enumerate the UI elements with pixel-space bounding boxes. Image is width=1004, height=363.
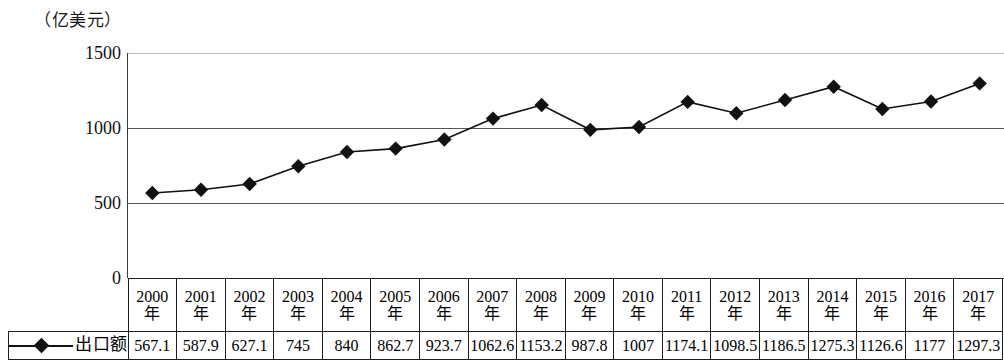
value-cell: 840 — [322, 332, 371, 360]
year-header-cell: 2011 年 — [662, 279, 711, 332]
diamond-marker-icon — [924, 94, 938, 108]
year-number: 2003 — [274, 288, 322, 305]
year-header-cell: 2000 年 — [128, 279, 177, 332]
year-suffix: 年 — [420, 305, 468, 322]
year-suffix: 年 — [323, 305, 371, 322]
diamond-marker-icon — [778, 93, 792, 107]
value-cell: 567.1 — [128, 332, 177, 360]
value-cell: 1153.2 — [517, 332, 566, 360]
year-number: 2002 — [226, 288, 274, 305]
year-header-cell: 2015 年 — [857, 279, 906, 332]
table-corner-cell — [9, 279, 129, 332]
chart-area: 1500 1000 500 0 — [0, 0, 1003, 290]
value-cell: 1297.3 — [954, 332, 1003, 360]
year-suffix: 年 — [129, 305, 177, 322]
year-suffix: 年 — [760, 305, 808, 322]
value-cell: 1174.1 — [662, 332, 711, 360]
year-header-cell: 2012 年 — [711, 279, 760, 332]
year-number: 2012 — [711, 288, 759, 305]
value-cell: 987.8 — [565, 332, 614, 360]
year-header-cell: 2004 年 — [322, 279, 371, 332]
year-number: 2015 — [857, 288, 905, 305]
table-row-values: 出口额 567.1 587.9 627.1 745 840 862.7 923.… — [9, 332, 1003, 360]
value-cell: 1007 — [614, 332, 663, 360]
y-tick-1000: 1000 — [85, 119, 121, 137]
year-suffix: 年 — [469, 305, 517, 322]
value-cell: 1062.6 — [468, 332, 517, 360]
year-number: 2008 — [517, 288, 565, 305]
diamond-marker-icon — [875, 102, 889, 116]
year-number: 2004 — [323, 288, 371, 305]
legend-line-icon — [47, 345, 73, 347]
year-number: 2005 — [371, 288, 419, 305]
value-cell: 923.7 — [419, 332, 468, 360]
series-line — [152, 83, 979, 193]
diamond-marker-icon — [632, 120, 646, 134]
export-value-line-series — [128, 53, 1004, 278]
year-suffix: 年 — [663, 305, 711, 322]
table-row-years: 2000 年 2001 年 2002 年 2003 年 2004 年 2005 … — [9, 279, 1003, 332]
year-header-cell: 2013 年 — [760, 279, 809, 332]
year-suffix: 年 — [857, 305, 905, 322]
diamond-marker-icon — [486, 111, 500, 125]
year-suffix: 年 — [177, 305, 225, 322]
year-suffix: 年 — [614, 305, 662, 322]
year-header-cell: 2003 年 — [274, 279, 323, 332]
value-cell: 1098.5 — [711, 332, 760, 360]
year-number: 2007 — [469, 288, 517, 305]
year-header-cell: 2007 年 — [468, 279, 517, 332]
value-cell: 1186.5 — [760, 332, 809, 360]
year-number: 2006 — [420, 288, 468, 305]
year-suffix: 年 — [809, 305, 857, 322]
year-number: 2009 — [566, 288, 614, 305]
year-number: 2010 — [614, 288, 662, 305]
year-header-cell: 2002 年 — [225, 279, 274, 332]
year-number: 2017 — [954, 288, 1002, 305]
year-number: 2001 — [177, 288, 225, 305]
year-header-cell: 2014 年 — [808, 279, 857, 332]
year-number: 2011 — [663, 288, 711, 305]
year-suffix: 年 — [226, 305, 274, 322]
diamond-marker-icon — [33, 338, 48, 353]
diamond-marker-icon — [437, 132, 451, 146]
diamond-marker-icon — [729, 106, 743, 120]
year-header-cell: 2010 年 — [614, 279, 663, 332]
year-number: 2016 — [906, 288, 954, 305]
diamond-marker-icon — [388, 141, 402, 155]
value-cell: 587.9 — [177, 332, 226, 360]
year-header-cell: 2006 年 — [419, 279, 468, 332]
legend-line-icon — [9, 345, 35, 347]
diamond-marker-icon — [291, 159, 305, 173]
year-header-cell: 2001 年 — [177, 279, 226, 332]
value-cell: 862.7 — [371, 332, 420, 360]
year-header-cell: 2008 年 — [517, 279, 566, 332]
plot-region — [127, 53, 1004, 278]
value-cell: 1275.3 — [808, 332, 857, 360]
year-suffix: 年 — [566, 305, 614, 322]
diamond-marker-icon — [242, 177, 256, 191]
data-table: 2000 年 2001 年 2002 年 2003 年 2004 年 2005 … — [8, 278, 1003, 360]
y-axis: 1500 1000 500 0 — [0, 0, 127, 290]
year-header-cell: 2016 年 — [905, 279, 954, 332]
year-number: 2014 — [809, 288, 857, 305]
year-suffix: 年 — [371, 305, 419, 322]
year-header-cell: 2009 年 — [565, 279, 614, 332]
diamond-marker-icon — [340, 145, 354, 159]
year-suffix: 年 — [517, 305, 565, 322]
diamond-marker-icon — [583, 123, 597, 137]
diamond-marker-icon — [534, 98, 548, 112]
year-number: 2013 — [760, 288, 808, 305]
year-suffix: 年 — [954, 305, 1002, 322]
value-cell: 627.1 — [225, 332, 274, 360]
year-header-cell: 2005 年 — [371, 279, 420, 332]
value-cell: 1177 — [905, 332, 954, 360]
year-header-cell: 2017 年 — [954, 279, 1003, 332]
year-number: 2000 — [129, 288, 177, 305]
diamond-marker-icon — [826, 80, 840, 94]
diamond-marker-icon — [145, 186, 159, 200]
year-suffix: 年 — [711, 305, 759, 322]
year-suffix: 年 — [274, 305, 322, 322]
diamond-marker-icon — [680, 95, 694, 109]
legend-cell: 出口额 — [9, 332, 129, 360]
